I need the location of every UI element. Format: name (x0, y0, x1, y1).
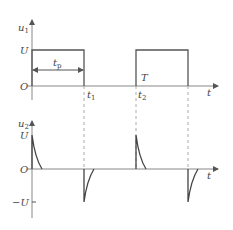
top-y-label: u1 (18, 22, 29, 35)
spike-pos-1 (32, 135, 42, 169)
top-x-label: t (207, 87, 212, 98)
spike-neg-2 (188, 169, 198, 202)
t1-label: t1 (87, 89, 96, 102)
top-plot: u1 U O tp T t1 t2 t (18, 20, 218, 102)
bottom-plot: u2 U O −U t (12, 118, 218, 218)
top-origin: O (20, 81, 28, 92)
bottom-x-label: t (207, 170, 212, 181)
spike-neg-1 (84, 169, 94, 202)
pulse-differentiator-diagram: u1 U O tp T t1 t2 t u2 U O −U t (0, 0, 233, 230)
spike-pos-2 (136, 135, 146, 169)
bottom-level-low: −U (12, 197, 29, 208)
bottom-origin: O (20, 164, 28, 175)
top-level-high: U (20, 45, 29, 56)
t2-label: t2 (138, 89, 147, 102)
bottom-level-high: U (20, 130, 29, 141)
pulse-width-label: tp (53, 57, 62, 70)
period-label: T (141, 72, 149, 83)
